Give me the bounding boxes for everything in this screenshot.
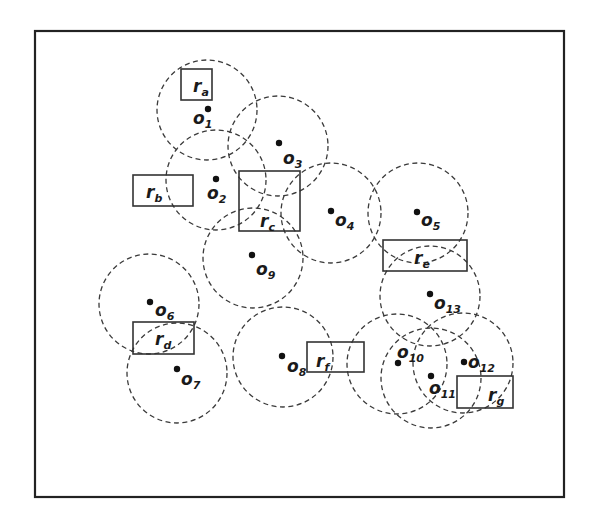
object-point-o1 [205,106,211,112]
object-point-o6 [147,299,153,305]
object-point-o8 [279,353,285,359]
object-point-o12 [461,359,467,365]
object-point-o9 [249,252,255,258]
object-point-o13 [427,291,433,297]
object-point-o5 [414,209,420,215]
object-point-o3 [276,140,282,146]
object-point-o2 [213,176,219,182]
object-point-o4 [328,208,334,214]
spatial-query-diagram: rarbrcrdrerfrg o1o2o3o4o5o6o7o8o9o10o11o… [0,0,596,521]
object-point-o7 [174,366,180,372]
